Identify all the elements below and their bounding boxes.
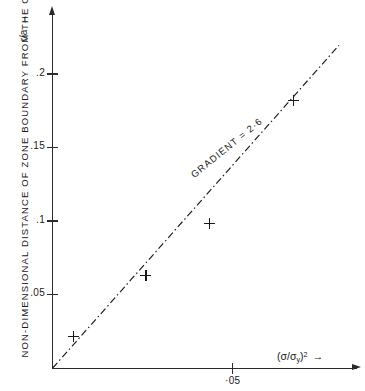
data-point-marker — [204, 218, 215, 229]
y-axis-symbol: r/a→ — [18, 14, 29, 42]
trend-line-segment — [53, 45, 339, 368]
figure-canvas: .2.15.1.05 ·05 GRADIENT = 2·6 NON-DIMENS… — [0, 0, 365, 391]
x-axis-symbol-base: (σ/σ — [277, 350, 296, 362]
y-axis-title: NON-DIMENSIONAL DISTANCE OF ZONE BOUNDAR… — [19, 18, 30, 358]
x-axis-symbol: (σ/σy)2→ — [277, 350, 323, 364]
data-point-marker — [288, 95, 299, 106]
x-axis-symbol-superscript: 2 — [303, 351, 307, 359]
data-point-marker — [140, 270, 151, 281]
trend-line — [0, 0, 365, 391]
y-axis-symbol-text: r/a — [18, 30, 29, 42]
data-point-marker — [68, 331, 79, 342]
y-axis-symbol-arrow-icon: → — [18, 14, 29, 25]
x-axis-symbol-arrow-icon: → — [312, 351, 323, 362]
